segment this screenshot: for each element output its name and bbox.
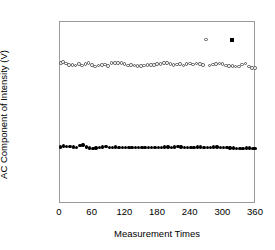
plot-area [59,21,255,203]
x-tick-label: 360 [235,206,275,217]
data-point [201,63,205,67]
data-point [106,64,110,68]
x-axis-title: Measurement Times [59,228,255,239]
data-point [204,38,208,42]
data-point [253,147,256,150]
data-point [230,38,234,42]
scatter-chart: AC Component of Intensity (V) Measuremen… [0,0,275,250]
y-axis-title: AC Component of Intensity (V) [0,12,12,217]
data-point [253,66,257,70]
